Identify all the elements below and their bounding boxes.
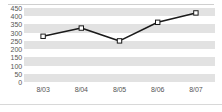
data-point-marker[interactable]: [117, 39, 121, 43]
data-point-marker[interactable]: [194, 11, 198, 15]
x-axis: 8/038/048/058/068/07: [24, 86, 215, 100]
y-tick-label: 50: [0, 70, 22, 77]
y-tick-label: 200: [0, 46, 22, 53]
y-tick-label: 350: [0, 21, 22, 28]
y-tick-label: 100: [0, 62, 22, 69]
y-tick-label: 450: [0, 5, 22, 12]
x-tick-label: 8/07: [189, 86, 202, 94]
y-tick-label: 150: [0, 54, 22, 61]
series-line: [24, 8, 215, 82]
x-tick-label: 8/05: [113, 86, 126, 94]
y-tick-label: 300: [0, 29, 22, 36]
line-chart: 050100150200250300350400450 8/038/048/05…: [0, 0, 222, 112]
data-point-marker[interactable]: [156, 20, 160, 24]
top-divider: [8, 4, 214, 5]
y-tick-label: 250: [0, 37, 22, 44]
bottom-divider: [0, 104, 222, 105]
y-tick-label: 400: [0, 13, 22, 20]
x-tick-label: 8/06: [151, 86, 164, 94]
x-tick-label: 8/03: [36, 86, 49, 94]
data-point-marker[interactable]: [41, 34, 45, 38]
data-point-marker[interactable]: [79, 26, 83, 30]
plot-area: [24, 8, 215, 82]
y-tick-label: 0: [0, 79, 22, 86]
x-tick-label: 8/04: [75, 86, 88, 94]
series-polyline: [43, 13, 196, 41]
y-axis: 050100150200250300350400450: [0, 8, 22, 82]
